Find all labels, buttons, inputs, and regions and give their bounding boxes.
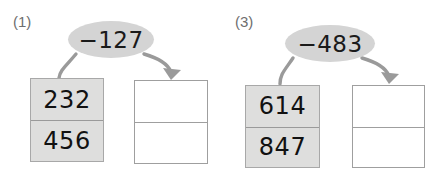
problem-group-2: (3) −483 614 847 <box>222 0 443 184</box>
answer-cell-bottom[interactable] <box>135 122 207 163</box>
arrowhead-icon <box>163 68 181 80</box>
answer-cell-top[interactable] <box>135 81 207 122</box>
operation-bubble: −483 <box>285 25 375 62</box>
answer-cell-bottom[interactable] <box>353 127 424 168</box>
problem-group-1: (1) −127 232 456 <box>0 0 221 184</box>
answer-cell-top[interactable] <box>353 86 424 127</box>
operation-bubble: −127 <box>68 21 154 58</box>
source-cell-bottom: 847 <box>246 127 319 168</box>
problem-number-label: (1) <box>13 13 31 30</box>
answer-box[interactable] <box>134 80 208 164</box>
problem-number-label: (3) <box>235 13 253 30</box>
arrowhead-icon <box>381 72 399 84</box>
source-number-box: 614 847 <box>245 85 320 168</box>
operation-label: −483 <box>285 25 375 62</box>
answer-box[interactable] <box>352 85 425 168</box>
source-cell-top: 232 <box>31 79 103 120</box>
source-number-box: 232 456 <box>30 78 104 162</box>
source-cell-top: 614 <box>246 86 319 127</box>
operation-label: −127 <box>68 21 154 58</box>
worksheet-page: (1) −127 232 456 (3) −483 <box>0 0 443 184</box>
source-cell-bottom: 456 <box>31 120 103 161</box>
